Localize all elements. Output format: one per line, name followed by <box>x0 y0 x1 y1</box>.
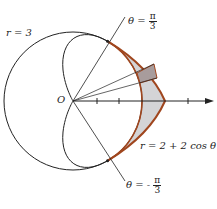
cardioid-label: r = 2 + 2 cos θ <box>140 140 216 151</box>
circle-label: r = 3 <box>6 27 32 38</box>
ray-minus-pi-over-3 <box>73 101 125 181</box>
axis-arrow-icon <box>205 98 214 104</box>
ray-bottom-label: θ = - π3 <box>126 176 161 195</box>
diagram-canvas <box>0 0 217 209</box>
origin-label: O <box>57 94 65 105</box>
polar-area-diagram: r = 3 r = 2 + 2 cos θ O θ = π3 θ = - π3 <box>0 0 217 209</box>
ray-pi-over-3 <box>73 17 125 101</box>
intersection-point <box>106 159 109 162</box>
intersection-point <box>106 40 109 43</box>
ray-top-label: θ = π3 <box>128 12 157 31</box>
